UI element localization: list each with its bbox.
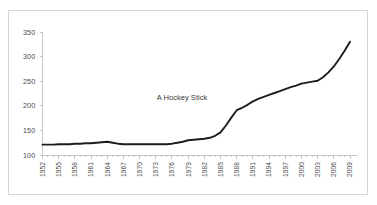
- x-tick-label: 1967: [120, 162, 127, 177]
- x-tick-label: 1994: [265, 162, 272, 177]
- x-tick-label: 1952: [39, 162, 46, 177]
- x-tick-label: 2003: [314, 162, 321, 177]
- x-tick-label: 1976: [168, 162, 175, 177]
- y-axis-group: 100150200250300350: [23, 28, 43, 160]
- y-tick-label: 350: [23, 28, 36, 37]
- x-tick-label: 1964: [104, 162, 111, 177]
- x-tick-label: 1985: [217, 162, 224, 177]
- x-tick-label: 1982: [201, 162, 208, 177]
- x-tick-label: 1991: [249, 162, 256, 177]
- x-axis-group: 1952195519581961196419671970197319761979…: [39, 155, 358, 177]
- y-tick-labels: 100150200250300350: [23, 28, 36, 160]
- y-tick-label: 100: [23, 151, 36, 160]
- x-tick-label: 1979: [185, 162, 192, 177]
- y-tick-marks: [40, 32, 43, 155]
- x-tick-label: 1997: [282, 162, 289, 177]
- x-tick-labels: 1952195519581961196419671970197319761979…: [39, 162, 354, 177]
- y-tick-label: 300: [23, 52, 36, 61]
- x-tick-label: 1958: [71, 162, 78, 177]
- x-tick-label: 2006: [330, 162, 337, 177]
- x-tick-label: 2009: [346, 162, 353, 177]
- chart-annotation-label: A Hockey Stick: [157, 93, 208, 102]
- y-tick-label: 200: [23, 101, 36, 110]
- hockey-stick-line-chart: 100150200250300350 195219551958196119641…: [0, 0, 377, 205]
- x-tick-label: 1970: [136, 162, 143, 177]
- y-tick-label: 150: [23, 126, 36, 135]
- y-tick-label: 250: [23, 77, 36, 86]
- x-tick-label: 1973: [152, 162, 159, 177]
- x-tick-label: 1988: [233, 162, 240, 177]
- x-tick-label: 2000: [298, 162, 305, 177]
- x-tick-label: 1961: [87, 162, 94, 177]
- x-tick-label: 1955: [55, 162, 62, 177]
